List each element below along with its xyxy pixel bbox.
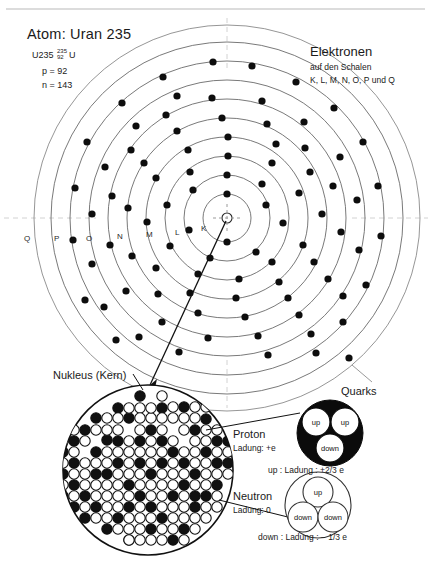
- proton-quark-down: down: [321, 444, 339, 453]
- neutron-count-label: n = 143: [42, 80, 72, 90]
- neutron-quark-up: up: [314, 488, 322, 497]
- nucleus-blowup: [36, 385, 233, 555]
- electrons-subheading: auf den Schalen: [310, 63, 371, 73]
- shell-label-q: Q: [24, 234, 30, 243]
- isotope-element-symbol: U: [69, 50, 76, 60]
- isotope-notation: U235 235 92 U: [32, 50, 72, 61]
- up-quark-charge-label: up : Ladung : +2/3 e: [268, 466, 344, 476]
- page-title: Atom: Uran 235: [27, 26, 131, 43]
- shell-label-l: L: [175, 228, 179, 237]
- electron-shell-list: K, L, M, N, O, P und Q: [310, 76, 395, 86]
- proton-quark-model: up up down: [297, 400, 363, 466]
- neutron-quark-model: up down down: [285, 472, 351, 538]
- shell-label-p: P: [54, 234, 59, 243]
- shell-label-k: K: [201, 224, 206, 233]
- nucleus-label: Nukleus (Kern): [53, 369, 126, 382]
- proton-quark-up1: up: [312, 418, 320, 427]
- isotope-atomic-number: 92: [57, 54, 64, 61]
- shell-label-m: M: [146, 230, 153, 239]
- proton-count-label: p = 92: [42, 66, 67, 76]
- quarks-leader-line: [352, 365, 372, 382]
- neutron-quark-down1: down: [294, 513, 312, 522]
- quarks-heading: Quarks: [341, 385, 376, 398]
- atom-diagram-figure: up up down up down down Atom: Uran 235 U…: [0, 0, 431, 569]
- electrons-heading: Elektronen: [310, 45, 372, 60]
- isotope-stack: 235 92 U: [57, 50, 71, 61]
- neutron-charge-label: Ladung: 0: [233, 506, 271, 516]
- proton-label: Proton: [233, 428, 265, 441]
- proton-quark-up2: up: [341, 418, 349, 427]
- proton-charge-label: Ladung: +e: [233, 444, 276, 454]
- neutron-quark-down2: down: [324, 513, 342, 522]
- atom-center-marker: [213, 204, 241, 232]
- shell-label-o: O: [86, 234, 92, 243]
- shell-label-n: N: [117, 232, 123, 241]
- neutron-label: Neutron: [233, 490, 272, 503]
- isotope-name: U235: [32, 50, 54, 60]
- down-quark-charge-label: down : Ladung : − 1/3 e: [258, 533, 347, 543]
- nucleus-callout-line: [150, 221, 226, 385]
